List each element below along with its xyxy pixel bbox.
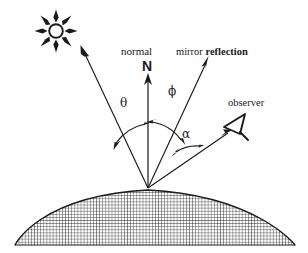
observer-eye-icon [224, 114, 248, 140]
reflection-diagram: normal N mirror reflection observer θ ϕ … [0, 0, 308, 253]
label-reflection-word: reflection [205, 46, 247, 57]
incident-ray-arrow-icon [81, 45, 149, 188]
label-normal-vector-n: N [142, 59, 152, 73]
label-angle-theta: θ [120, 97, 127, 109]
label-observer: observer [228, 98, 264, 109]
label-mirror-word: mirror [176, 46, 203, 57]
angle-arc-phi [146, 119, 185, 145]
angle-arc-alpha [171, 145, 204, 157]
observer-ray-arrow-icon [148, 129, 233, 188]
diagram-canvas [0, 0, 308, 253]
normal-arrow-icon [144, 73, 152, 188]
label-normal: normal [121, 46, 152, 57]
label-mirror-reflection: mirror reflection [176, 47, 248, 58]
sun-icon [35, 10, 78, 53]
label-angle-alpha: α [182, 128, 190, 140]
mirror-reflection-arrow-icon [148, 56, 209, 188]
hatched-dome-surface [15, 190, 295, 245]
label-angle-phi: ϕ [168, 85, 176, 97]
